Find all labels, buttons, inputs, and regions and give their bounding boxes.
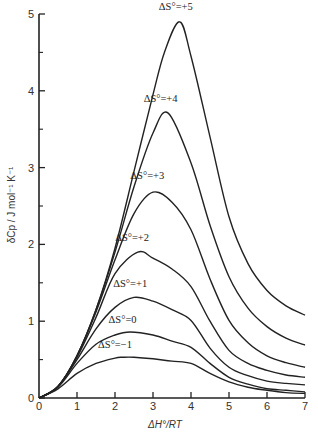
series-label: ΔS°=+4 bbox=[144, 93, 179, 104]
x-tick-label: 4 bbox=[188, 400, 194, 412]
x-tick-label: 0 bbox=[36, 400, 42, 412]
series-lines bbox=[39, 22, 305, 398]
series-label: ΔS°=−1 bbox=[98, 339, 132, 350]
y-tick-label: 3 bbox=[28, 162, 34, 174]
series-label: ΔS°=+1 bbox=[113, 278, 147, 289]
series-line bbox=[39, 192, 305, 398]
x-tick-label: 5 bbox=[226, 400, 232, 412]
y-tick-label: 4 bbox=[28, 85, 34, 97]
y-tick-label: 5 bbox=[28, 8, 34, 20]
chart: 01234501234567 ΔS°=+5ΔS°=+4ΔS°=+3ΔS°=+2Δ… bbox=[0, 0, 318, 435]
y-tick-label: 0 bbox=[28, 392, 34, 404]
x-tick-label: 3 bbox=[150, 400, 156, 412]
series-label: ΔS°=+5 bbox=[159, 1, 193, 12]
series-label: ΔS°=0 bbox=[109, 314, 137, 325]
x-tick-label: 2 bbox=[112, 400, 118, 412]
series-label: ΔS°=+2 bbox=[115, 232, 149, 243]
series-label: ΔS°=+3 bbox=[130, 170, 164, 181]
x-axis-title: ΔH°/RT bbox=[147, 419, 183, 430]
y-tick-label: 1 bbox=[28, 315, 34, 327]
series-labels: ΔS°=+5ΔS°=+4ΔS°=+3ΔS°=+2ΔS°=+1ΔS°=0ΔS°=−… bbox=[98, 1, 193, 350]
series-line bbox=[39, 332, 305, 398]
x-tick-label: 7 bbox=[302, 400, 308, 412]
x-tick-label: 1 bbox=[74, 400, 80, 412]
y-tick-label: 2 bbox=[28, 238, 34, 250]
series-line bbox=[39, 357, 305, 398]
y-axis-title: δCp / J mol⁻¹ K⁻¹ bbox=[6, 166, 17, 243]
x-tick-label: 6 bbox=[264, 400, 270, 412]
axes: 01234501234567 bbox=[28, 8, 308, 412]
series-line bbox=[39, 297, 305, 398]
